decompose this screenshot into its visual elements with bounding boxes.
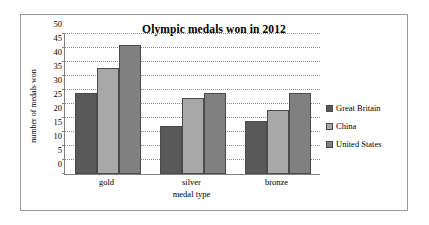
y-tick-label: 25	[54, 89, 63, 99]
chart-frame: Olympic medals won in 2012 number of med…	[20, 14, 408, 211]
bar-bronze-great-britain[interactable]	[245, 121, 267, 174]
legend-item-china[interactable]: China	[326, 121, 382, 131]
y-tick-label: 30	[54, 75, 63, 85]
bar-silver-china[interactable]	[182, 98, 204, 174]
y-tick-label: 40	[54, 47, 63, 57]
chart-legend: Great BritainChinaUnited States	[326, 103, 382, 157]
y-axis-title-label: number of medals won	[29, 51, 38, 161]
legend-item-united-states[interactable]: United States	[326, 139, 382, 149]
bar-group-silver	[150, 34, 235, 174]
plot-area: 05101520253035404550	[64, 34, 320, 175]
y-tick-label: 5	[58, 145, 62, 155]
y-axis-title: number of medals won	[29, 51, 41, 161]
bar-bronze-china[interactable]	[267, 110, 289, 174]
bar-silver-united-states[interactable]	[204, 93, 226, 174]
bar-gold-great-britain[interactable]	[75, 93, 97, 174]
bar-gold-united-states[interactable]	[119, 45, 141, 174]
y-tick-label: 15	[54, 117, 63, 127]
legend-label: China	[336, 121, 356, 131]
x-axis-tick-labels: goldsilverbronze	[64, 177, 319, 187]
bar-gold-china[interactable]	[97, 68, 119, 174]
legend-swatch-icon	[326, 105, 333, 112]
y-tick-label: 10	[54, 131, 63, 141]
legend-label: Great Britain	[336, 103, 381, 113]
x-tick-label-silver: silver	[149, 177, 234, 187]
legend-label: United States	[336, 139, 382, 149]
legend-swatch-icon	[326, 141, 333, 148]
bars-layer	[65, 34, 320, 174]
x-axis-title: medal type	[64, 189, 319, 199]
bar-bronze-united-states[interactable]	[289, 93, 311, 174]
y-tick-label: 0	[58, 159, 62, 169]
legend-swatch-icon	[326, 123, 333, 130]
bar-silver-great-britain[interactable]	[160, 126, 182, 174]
y-tick-label: 35	[54, 61, 63, 71]
bar-group-gold	[65, 34, 150, 174]
legend-item-great-britain[interactable]: Great Britain	[326, 103, 382, 113]
bar-group-bronze	[235, 34, 320, 174]
x-tick-label-bronze: bronze	[234, 177, 319, 187]
y-tick-label: 20	[54, 103, 63, 113]
x-tick-label-gold: gold	[64, 177, 149, 187]
